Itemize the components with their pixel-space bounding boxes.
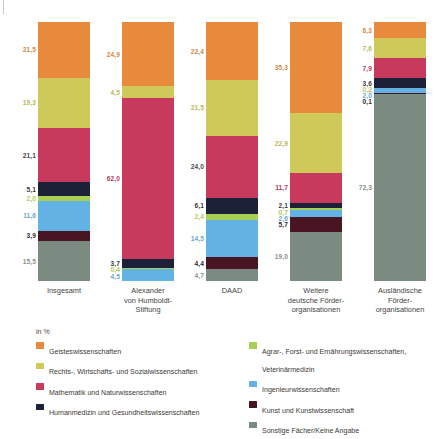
segment-value-label: 15,5 <box>23 258 36 265</box>
bar-value-labels: 35,322,911,72,10,72,65,719,0 <box>244 22 288 281</box>
legend-item-label: Humanmedizin und Gesundheitswissenschaft… <box>49 409 199 416</box>
segment-value-label: 7,9 <box>363 65 372 72</box>
bar-value-labels: 22,421,524,06,12,414,54,44,7 <box>160 22 204 281</box>
segment-value-label: 11,7 <box>275 184 288 191</box>
segment-value-label: 35,3 <box>275 64 288 71</box>
bar-segment[interactable] <box>374 94 426 281</box>
segment-value-label: 21,5 <box>191 104 204 111</box>
legend-item[interactable]: Agrar-, Forst- und Ernährungswissenschaf… <box>249 340 442 376</box>
segment-value-label: 5,1 <box>27 186 36 193</box>
segment-value-label: 19,3 <box>23 99 36 106</box>
segment-value-label: 72,3 <box>359 184 372 191</box>
segment-value-label: 24,0 <box>191 163 204 170</box>
segment-value-label: 4,4 <box>195 260 204 267</box>
segment-value-label: 22,4 <box>191 48 204 55</box>
legend-item-label: Geisteswissenschaften <box>49 348 121 355</box>
segment-value-label: 0,1 <box>363 98 372 105</box>
bar-segment[interactable] <box>374 58 426 78</box>
segment-value-label: 21,5 <box>23 46 36 53</box>
legend-swatch-icon <box>36 404 44 410</box>
legend-item-label: Sonstige Fächer/Keine Angabe <box>262 427 359 434</box>
legend-column-left: GeisteswissenschaftenRechts-, Wirtschaft… <box>36 340 251 422</box>
segment-value-label: 24,9 <box>107 51 120 58</box>
segment-value-label: 2,4 <box>195 213 204 220</box>
legend-item-label: Kunst und Kunstwissenschaft <box>262 407 354 414</box>
segment-value-label: 4,5 <box>111 89 120 96</box>
segment-value-label: 14,5 <box>191 235 204 242</box>
legend-swatch-icon <box>36 342 44 348</box>
legend-swatch-icon <box>249 401 257 407</box>
chart-legend: in % GeisteswissenschaftenRechts-, Wirts… <box>0 326 442 424</box>
segment-value-label: 19,0 <box>275 253 288 260</box>
legend-swatch-icon <box>36 383 44 389</box>
segment-value-label: 11,6 <box>23 212 36 219</box>
bar[interactable] <box>374 22 426 281</box>
segment-value-label: 4,5 <box>111 273 120 280</box>
legend-swatch-icon <box>36 363 44 369</box>
legend-item[interactable]: Sonstige Fächer/Keine Angabe <box>249 419 442 437</box>
plot-area: 21,519,321,15,12,011,63,915,5Insgesamt24… <box>0 0 442 300</box>
segment-value-label: 22,9 <box>275 140 288 147</box>
category-label-5: Ausländische Förder- organisationen <box>346 286 442 315</box>
segment-value-label: 4,7 <box>195 272 204 279</box>
legend-item-label: Agrar-, Forst- und Ernährungswissenschaf… <box>262 348 406 373</box>
legend-swatch-icon <box>249 381 257 387</box>
legend-item[interactable]: Geisteswissenschaften <box>36 340 251 358</box>
bar-segment[interactable] <box>374 78 426 87</box>
segment-value-label: 5,7 <box>279 221 288 228</box>
legend-item[interactable]: Mathematik und Naturwissenschaften <box>36 381 251 399</box>
legend-column-right: Agrar-, Forst- und Ernährungswissenschaf… <box>249 340 442 439</box>
segment-value-label: 2,0 <box>27 195 36 202</box>
legend-item[interactable]: Kunst und Kunstwissenschaft <box>249 399 442 417</box>
legend-item-label: Rechts-, Wirtschafts- und Sozialwissensc… <box>49 368 197 375</box>
bar-segment[interactable] <box>374 22 426 38</box>
bar-segment[interactable] <box>374 38 426 58</box>
bar-value-labels: 21,519,321,15,12,011,63,915,5 <box>0 22 36 281</box>
bar-value-labels: 24,94,562,03,70,44,5 <box>76 22 120 281</box>
legend-item[interactable]: Humanmedizin und Gesundheitswissenschaft… <box>36 401 251 419</box>
legend-item-label: Ingenieurwissenschaften <box>262 386 340 393</box>
legend-swatch-icon <box>249 342 257 348</box>
segment-value-label: 3,9 <box>27 232 36 239</box>
segment-value-label: 21,1 <box>23 152 36 159</box>
legend-item-label: Mathematik und Naturwissenschaften <box>49 389 167 396</box>
segment-value-label: 62,0 <box>107 175 120 182</box>
segment-value-label: 7,6 <box>363 45 372 52</box>
legend-swatch-icon <box>249 422 257 428</box>
segment-value-label: 6,3 <box>363 27 372 34</box>
bar-value-labels: 6,37,67,93,60,22,00,172,3 <box>328 22 372 281</box>
legend-unit-label: in % <box>36 328 50 335</box>
segment-value-label: 6,1 <box>195 202 204 209</box>
legend-item[interactable]: Ingenieurwissenschaften <box>249 378 442 396</box>
legend-item[interactable]: Rechts-, Wirtschafts- und Sozialwissensc… <box>36 360 251 378</box>
